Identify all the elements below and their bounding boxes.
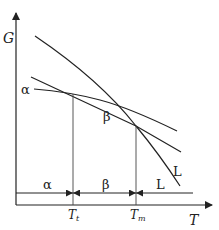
curve-beta-label: β xyxy=(103,109,111,124)
curve-liquid-label: L xyxy=(173,164,182,179)
x-axis-label: T xyxy=(189,212,200,228)
tm-label: Tm xyxy=(130,208,146,223)
alpha-region-label: α xyxy=(43,177,52,192)
curve-alpha-label: α xyxy=(21,82,30,97)
liquid-region-label: L xyxy=(156,177,165,192)
y-axis-label: G xyxy=(3,30,14,46)
tt-label: Tt xyxy=(68,208,80,223)
beta-region-label: β xyxy=(102,177,110,192)
phase-diagram: G T α β L α β L Tt Tm xyxy=(0,0,219,230)
